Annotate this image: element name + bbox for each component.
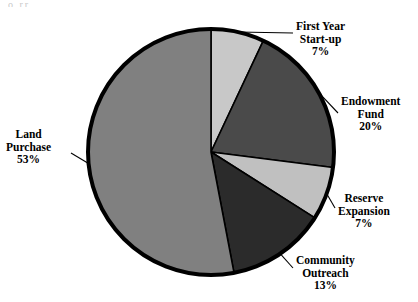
slice-label-line1: First Year — [296, 20, 345, 33]
slice-label-community-outreach: Community Outreach 13% — [296, 254, 355, 292]
slice-label-line1: Endowment — [341, 95, 400, 108]
pie-chart-figure: o rr First Year Start-up 7% Endowment Fu… — [0, 0, 418, 302]
leader-line-reserve-expansion — [327, 194, 335, 208]
slice-label-line2: Expansion — [338, 205, 390, 218]
pie-chart-canvas — [0, 0, 418, 302]
slice-label-first-year-start-up: First Year Start-up 7% — [296, 20, 345, 58]
slice-label-line1: Community — [296, 254, 355, 267]
slice-label-line1: Reserve — [338, 192, 390, 205]
slice-label-line2: Outreach — [296, 267, 355, 280]
slice-label-line1: Land — [6, 128, 51, 141]
slice-label-line2: Start-up — [296, 33, 345, 46]
slice-label-line2: Purchase — [6, 141, 51, 154]
slice-label-value: 20% — [341, 120, 400, 133]
slice-label-line2: Fund — [341, 108, 400, 121]
slice-label-land-purchase: Land Purchase 53% — [6, 128, 51, 166]
leader-line-community-outreach — [280, 254, 293, 268]
slice-label-reserve-expansion: Reserve Expansion 7% — [338, 192, 390, 230]
slice-label-endowment-fund: Endowment Fund 20% — [341, 95, 400, 133]
slice-label-value: 13% — [296, 279, 355, 292]
slice-label-value: 7% — [296, 45, 345, 58]
leader-line-land-purchase — [71, 153, 89, 164]
slice-label-value: 53% — [6, 153, 51, 166]
slice-label-value: 7% — [338, 217, 390, 230]
